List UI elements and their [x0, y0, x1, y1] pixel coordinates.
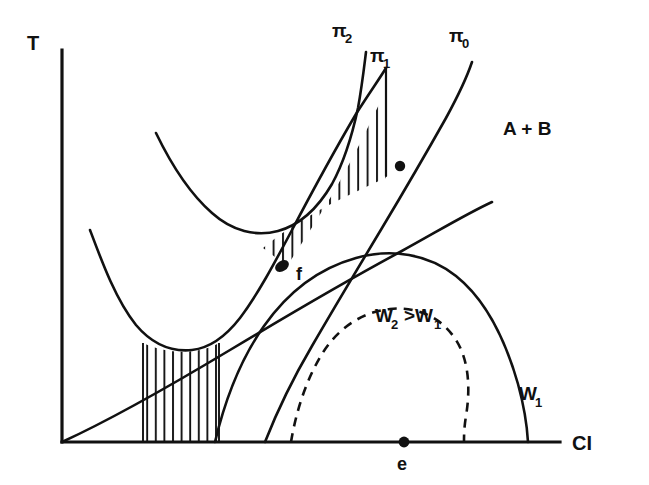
marker-dot-intersection [395, 161, 405, 171]
curve-w2 [291, 309, 468, 442]
svg-text:2: 2 [391, 317, 398, 332]
upper-hatched-wedge [255, 80, 395, 275]
svg-text:1: 1 [535, 395, 542, 410]
label-point-e: e [397, 454, 407, 474]
lower-hatched-region [140, 330, 224, 446]
upper-hatch-fill [255, 80, 395, 275]
curve-w1 [215, 253, 528, 442]
label-point-f: f [296, 264, 303, 284]
x-axis-label: CI [572, 432, 592, 454]
label-pi2: π 2 [332, 20, 352, 46]
figure-root: T CI π 2 π 1 π 0 A + B W 2 >W 1 W 1 f e [0, 0, 649, 485]
phase-diagram-canvas: T CI π 2 π 1 π 0 A + B W 2 >W 1 W 1 f e [0, 0, 649, 485]
lower-hatch-fill [140, 330, 224, 446]
svg-text:2: 2 [345, 31, 352, 46]
y-axis-label: T [27, 32, 39, 54]
label-w2-gt-w1: W 2 >W 1 [375, 305, 441, 332]
svg-text:>W: >W [404, 305, 433, 326]
svg-text:1: 1 [383, 56, 390, 71]
svg-text:1: 1 [434, 317, 441, 332]
curve-pi2 [156, 52, 366, 233]
label-pi1: π 1 [370, 45, 390, 71]
label-pi0: π 0 [449, 25, 469, 51]
label-a-plus-b: A + B [503, 118, 551, 139]
curve-pi1 [90, 68, 386, 350]
marker-dot-e [399, 437, 410, 448]
svg-text:0: 0 [462, 36, 469, 51]
